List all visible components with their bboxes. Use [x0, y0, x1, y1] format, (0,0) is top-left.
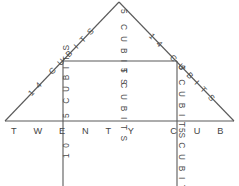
label-left-below-baseline: 1 0	[61, 141, 71, 158]
diagram-canvas: 1 4 C U B I T S 1 4 C U B I T S 5 C U B …	[0, 0, 239, 186]
label-left-wall: 5 C U B I T S	[61, 43, 71, 118]
label-right-below-baseline: 5 C U B I T S	[177, 128, 187, 186]
diagram-svg: 1 4 C U B I T S 1 4 C U B I T S 5 C U B …	[0, 0, 239, 186]
label-baseline-span: T W E N T Y C U B I T S	[11, 126, 239, 136]
